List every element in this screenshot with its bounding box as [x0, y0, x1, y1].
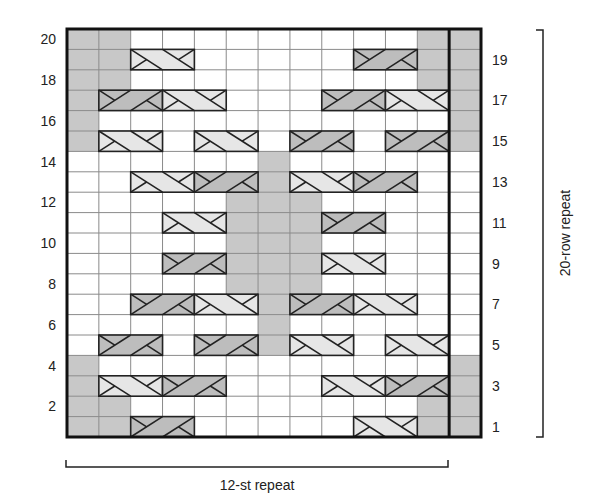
row-number-right: 5	[492, 337, 500, 353]
gray-stitch-cell	[449, 70, 481, 90]
white-stitch-cell	[322, 111, 354, 131]
gray-stitch-cell	[226, 233, 258, 253]
white-stitch-cell	[67, 213, 99, 233]
white-stitch-cell	[385, 29, 417, 49]
white-stitch-cell	[449, 253, 481, 273]
cable-right-dark-icon	[163, 253, 227, 273]
row-number-left: 12	[40, 194, 56, 210]
cable-right-dark-icon	[354, 49, 418, 69]
white-stitch-cell	[67, 274, 99, 294]
white-stitch-cell	[99, 355, 131, 375]
gray-stitch-cell	[226, 213, 258, 233]
white-stitch-cell	[163, 233, 195, 253]
gray-stitch-cell	[449, 111, 481, 131]
white-stitch-cell	[354, 29, 386, 49]
knitting-chart: 2018161412108642 191715131197531 12-st r…	[0, 0, 600, 500]
white-stitch-cell	[131, 29, 163, 49]
row-number-left: 16	[40, 113, 56, 129]
white-stitch-cell	[354, 151, 386, 171]
white-stitch-cell	[417, 253, 449, 273]
row-number-right: 7	[492, 296, 500, 312]
white-stitch-cell	[131, 233, 163, 253]
white-stitch-cell	[99, 294, 131, 314]
white-stitch-cell	[226, 70, 258, 90]
white-stitch-cell	[354, 233, 386, 253]
white-stitch-cell	[67, 335, 99, 355]
white-stitch-cell	[290, 315, 322, 335]
row-number-left: 4	[48, 358, 56, 374]
stitch-repeat-bracket	[66, 460, 448, 467]
white-stitch-cell	[417, 274, 449, 294]
white-stitch-cell	[194, 417, 226, 437]
white-stitch-cell	[163, 70, 195, 90]
row-numbers-left: 2018161412108642	[40, 31, 56, 414]
white-stitch-cell	[67, 172, 99, 192]
stitch-repeat-label: 12-st repeat	[220, 477, 295, 493]
white-stitch-cell	[99, 111, 131, 131]
white-stitch-cell	[194, 49, 226, 69]
cable-right-dark-icon	[194, 335, 258, 355]
white-stitch-cell	[67, 253, 99, 273]
white-stitch-cell	[226, 151, 258, 171]
gray-stitch-cell	[258, 274, 290, 294]
gray-stitch-cell	[449, 376, 481, 396]
white-stitch-cell	[67, 315, 99, 335]
cable-left-light-icon	[385, 90, 449, 110]
gray-stitch-cell	[67, 355, 99, 375]
gray-stitch-cell	[258, 213, 290, 233]
row-number-left: 18	[40, 72, 56, 88]
white-stitch-cell	[290, 70, 322, 90]
row-number-right: 15	[492, 133, 508, 149]
white-stitch-cell	[258, 29, 290, 49]
cable-right-dark-icon	[99, 335, 163, 355]
white-stitch-cell	[99, 233, 131, 253]
white-stitch-cell	[99, 253, 131, 273]
white-stitch-cell	[385, 111, 417, 131]
white-stitch-cell	[322, 70, 354, 90]
gray-stitch-cell	[449, 131, 481, 151]
white-stitch-cell	[354, 192, 386, 212]
white-stitch-cell	[226, 417, 258, 437]
white-stitch-cell	[226, 111, 258, 131]
white-stitch-cell	[417, 294, 449, 314]
gray-stitch-cell	[290, 253, 322, 273]
gray-stitch-cell	[417, 70, 449, 90]
white-stitch-cell	[290, 396, 322, 416]
cable-left-light-icon	[385, 335, 449, 355]
white-stitch-cell	[131, 213, 163, 233]
white-stitch-cell	[290, 151, 322, 171]
gray-stitch-cell	[99, 417, 131, 437]
white-stitch-cell	[449, 192, 481, 212]
white-stitch-cell	[163, 355, 195, 375]
white-stitch-cell	[226, 315, 258, 335]
white-stitch-cell	[194, 315, 226, 335]
cable-right-dark-icon	[385, 131, 449, 151]
row-number-right: 3	[492, 378, 500, 394]
white-stitch-cell	[99, 151, 131, 171]
row-number-right: 11	[492, 215, 507, 231]
gray-stitch-cell	[258, 315, 290, 335]
white-stitch-cell	[99, 315, 131, 335]
cable-left-light-icon	[322, 376, 386, 396]
cable-right-dark-icon	[290, 294, 354, 314]
white-stitch-cell	[417, 151, 449, 171]
white-stitch-cell	[322, 417, 354, 437]
white-stitch-cell	[385, 213, 417, 233]
gray-stitch-cell	[449, 355, 481, 375]
white-stitch-cell	[163, 151, 195, 171]
row-number-right: 19	[492, 52, 508, 68]
white-stitch-cell	[354, 131, 386, 151]
white-stitch-cell	[258, 376, 290, 396]
gray-stitch-cell	[449, 49, 481, 69]
white-stitch-cell	[194, 274, 226, 294]
cable-right-dark-icon	[194, 172, 258, 192]
white-stitch-cell	[226, 396, 258, 416]
white-stitch-cell	[449, 315, 481, 335]
white-stitch-cell	[226, 355, 258, 375]
white-stitch-cell	[194, 70, 226, 90]
gray-stitch-cell	[226, 274, 258, 294]
white-stitch-cell	[290, 49, 322, 69]
white-stitch-cell	[258, 90, 290, 110]
white-stitch-cell	[163, 111, 195, 131]
row-number-left: 6	[48, 317, 56, 333]
